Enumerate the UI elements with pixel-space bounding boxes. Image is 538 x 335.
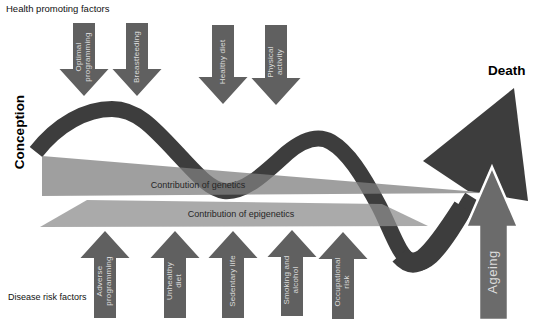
arrow-label-adverse-programming: Adverse programming bbox=[96, 256, 114, 305]
arrow-label-physical-activity: Physical activity bbox=[267, 46, 285, 77]
death-label: Death bbox=[488, 63, 526, 78]
arrow-label-optimal-programming: Optimal programming bbox=[75, 32, 93, 81]
conception-label: Conception bbox=[12, 95, 27, 169]
health-promoting-section-label: Health promoting factors bbox=[6, 3, 110, 14]
arrow-label-breastfeeding: Breastfeeding bbox=[133, 31, 142, 83]
arrow-label-smoking-alcohol: Smoking and alcohol bbox=[283, 256, 301, 305]
disease-risk-section-label: Disease risk factors bbox=[8, 292, 87, 302]
life-course-diagram: Health promoting factors Disease risk fa… bbox=[0, 0, 538, 335]
arrow-label-occupational-risk: Occupational risk bbox=[334, 257, 352, 306]
epigenetics-band-label: Contribution of epigenetics bbox=[188, 209, 295, 219]
arrow-label-healthy-diet: Healthy diet bbox=[219, 40, 228, 85]
arrow-label-ageing: Ageing bbox=[486, 250, 501, 293]
death-arrowhead bbox=[423, 88, 528, 201]
arrow-label-unhealthy-diet: Unhealthy diet bbox=[166, 262, 184, 300]
life-course-wave-tail bbox=[400, 207, 463, 262]
genetics-band-label: Contribution of genetics bbox=[151, 180, 246, 190]
arrow-label-sedentary-life: Sedentary life bbox=[229, 255, 238, 307]
